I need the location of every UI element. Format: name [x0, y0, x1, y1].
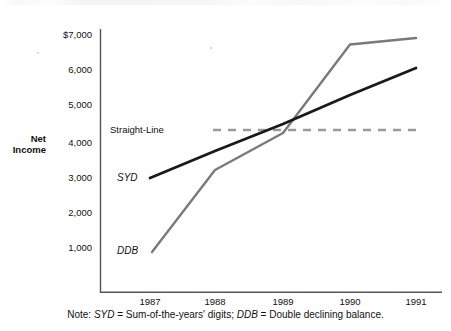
note-prefix: Note:	[67, 309, 94, 320]
series-line-ddb	[152, 38, 416, 252]
x-tick-label: 1990	[328, 296, 372, 307]
y-axis-title-line2: Income	[0, 144, 46, 155]
series-label-straight-line: Straight-Line	[110, 124, 164, 135]
figure-note: Note: SYD = Sum-of-the-years' digits; DD…	[0, 309, 451, 321]
y-axis-title-line1: Net	[0, 133, 46, 144]
y-tick-label: 5,000	[40, 100, 92, 110]
note-syd-abbr: SYD	[94, 309, 115, 320]
plot-area	[0, 0, 451, 331]
x-tick-label: 1988	[193, 296, 237, 307]
series-line-syd	[150, 68, 416, 178]
y-tick-label: 4,000	[40, 138, 92, 148]
note-ddb-text: = Double declining balance.	[258, 309, 384, 320]
y-tick-label: 3,000	[40, 173, 92, 183]
series-label-ddb: DDB	[117, 245, 138, 256]
y-tick-label: 6,000	[40, 65, 92, 75]
net-income-depreciation-chart: $7,000 6,000 5,000 4,000 3,000 2,000 1,0…	[0, 0, 451, 331]
series-label-syd: SYD	[117, 172, 138, 183]
x-tick-label: 1987	[128, 296, 172, 307]
note-syd-text: = Sum-of-the-years' digits;	[114, 309, 236, 320]
x-tick-label: 1989	[261, 296, 305, 307]
x-tick-label: 1991	[394, 296, 438, 307]
y-tick-label: 1,000	[40, 243, 92, 253]
y-tick-label: 2,000	[40, 208, 92, 218]
note-ddb-abbr: DDB	[237, 309, 258, 320]
y-tick-label: $7,000	[40, 30, 92, 40]
